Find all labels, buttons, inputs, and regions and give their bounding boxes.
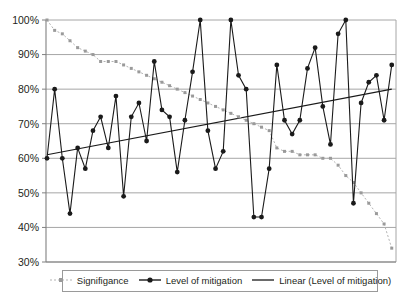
legend-swatch-significance-icon (49, 276, 73, 286)
mitigation-data-point (144, 139, 149, 144)
legend-item-significance: Signifigance (49, 276, 129, 286)
chart-legend: Signifigance Level of mitigation Linear … (62, 270, 378, 292)
significance-data-point (252, 122, 255, 125)
y-axis-tick-label: 100% (12, 14, 39, 26)
mitigation-data-point (336, 31, 341, 36)
y-axis-tick-label: 90% (18, 48, 39, 60)
y-axis-tick-label: 30% (18, 256, 39, 268)
y-axis-tick-labels: 100%90%80%70%60%50%40%30% (12, 14, 39, 268)
mitigation-data-point (167, 114, 172, 119)
mitigation-data-point (60, 156, 65, 161)
significance-data-point (291, 150, 294, 153)
significance-data-point (61, 32, 64, 35)
legend-swatch-mitigation-icon (138, 276, 162, 286)
chart-figure: 100%90%80%70%60%50%40%30% Signifigance (0, 0, 413, 303)
mitigation-data-point (221, 149, 226, 154)
mitigation-data-point (190, 69, 195, 74)
significance-data-point (183, 91, 186, 94)
dotted-line-marker-icon (49, 276, 73, 284)
significance-data-point (344, 174, 347, 177)
legend-label-significance: Signifigance (77, 276, 129, 286)
mitigation-data-point (351, 201, 356, 206)
solid-line-circle-marker-icon (138, 276, 162, 284)
legend-item-trendline: Linear (Level of mitigation) (251, 276, 391, 286)
significance-data-point (53, 29, 56, 32)
significance-data-point (145, 74, 148, 77)
significance-data-point (314, 153, 317, 156)
mitigation-data-point (290, 132, 295, 137)
mitigation-data-point (68, 211, 73, 216)
significance-data-point (160, 81, 163, 84)
legend-label-trendline: Linear (Level of mitigation) (279, 276, 391, 286)
significance-data-point (390, 247, 393, 250)
significance-data-point (298, 153, 301, 156)
significance-data-point (137, 70, 140, 73)
significance-data-point (306, 153, 309, 156)
mitigation-data-point (328, 142, 333, 147)
mitigation-data-point (137, 101, 142, 106)
mitigation-data-point (98, 114, 103, 119)
y-axis-tick-label: 50% (18, 187, 39, 199)
mitigation-data-point (114, 94, 119, 99)
significance-data-point (191, 95, 194, 98)
significance-data-point (76, 46, 79, 49)
significance-data-point (122, 63, 125, 66)
mitigation-data-point (83, 166, 88, 171)
mitigation-data-point (129, 114, 134, 119)
mitigation-data-point (320, 104, 325, 109)
mitigation-data-point (121, 194, 126, 199)
mitigation-data-point (251, 215, 256, 220)
legend-label-mitigation: Level of mitigation (166, 276, 243, 286)
significance-data-point (367, 202, 370, 205)
significance-data-point (245, 119, 248, 122)
mitigation-data-point (91, 128, 96, 133)
mitigation-data-point (343, 18, 348, 23)
significance-data-point (268, 129, 271, 132)
significance-data-point (337, 164, 340, 167)
significance-data-point (283, 150, 286, 153)
significance-data-point (68, 39, 71, 42)
mitigation-data-point (267, 166, 272, 171)
significance-data-point (237, 115, 240, 118)
significance-data-point (329, 157, 332, 160)
significance-data-point (275, 146, 278, 149)
significance-data-point (176, 88, 179, 91)
y-axis-tick-label: 80% (18, 83, 39, 95)
mitigation-data-point (175, 170, 180, 175)
mitigation-data-point (305, 66, 310, 71)
mitigation-data-point (366, 80, 371, 85)
y-axis-tick-label: 40% (18, 221, 39, 233)
mitigation-data-point (213, 166, 218, 171)
y-axis-tick-label: 70% (18, 118, 39, 130)
mitigation-data-point (374, 73, 379, 78)
solid-line-icon (251, 276, 275, 284)
mitigation-data-point (228, 18, 233, 23)
chart-plot-svg: 100%90%80%70%60%50%40%30% (0, 0, 413, 303)
significance-data-point (321, 157, 324, 160)
mitigation-data-point (75, 146, 80, 151)
significance-data-point (375, 212, 378, 215)
mitigation-data-point (244, 87, 249, 92)
mitigation-data-point (297, 118, 302, 123)
significance-data-point (168, 84, 171, 87)
mitigation-data-point (160, 107, 165, 112)
significance-data-point (199, 98, 202, 101)
significance-data-point (206, 101, 209, 104)
mitigation-data-point (382, 118, 387, 123)
significance-data-point (229, 112, 232, 115)
significance-data-point (214, 105, 217, 108)
significance-data-point (46, 19, 49, 22)
significance-data-point (360, 191, 363, 194)
legend-swatch-trendline-icon (251, 276, 275, 286)
significance-data-point (114, 60, 117, 63)
significance-data-point (222, 108, 225, 111)
significance-data-point (383, 222, 386, 225)
significance-data-point (84, 50, 87, 53)
legend-item-mitigation: Level of mitigation (138, 276, 243, 286)
mitigation-data-point (313, 45, 318, 50)
mitigation-data-point (183, 118, 188, 123)
mitigation-data-point (152, 59, 157, 64)
mitigation-data-point (259, 215, 264, 220)
significance-data-point (107, 60, 110, 63)
significance-data-point (91, 53, 94, 56)
